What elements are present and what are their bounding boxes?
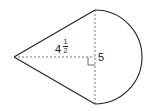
fraction-denominator: 2	[64, 47, 68, 54]
height-label: 4 1 2	[55, 40, 61, 56]
lower-triangle-side	[14, 57, 95, 104]
right-angle-marker	[88, 57, 95, 65]
fraction-numerator: 1	[64, 38, 68, 45]
composite-shape-diagram	[0, 0, 144, 111]
half-base-label: 5	[98, 52, 104, 63]
height-label-fraction: 1 2	[63, 38, 68, 54]
height-label-whole: 4	[55, 43, 61, 55]
